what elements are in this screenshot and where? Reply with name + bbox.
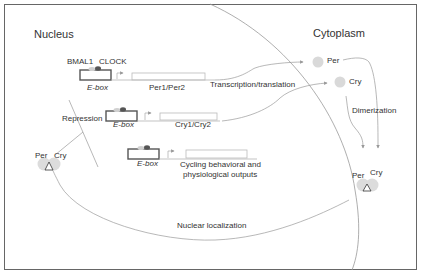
protein-per-cyto: [313, 57, 324, 68]
tss-arrow-1: [117, 73, 123, 79]
gene-per-construct: [80, 66, 215, 80]
label-dimer-nuc-per: Per: [35, 152, 47, 160]
label-repression: Repression: [62, 115, 102, 123]
label-transcription-translation: Transcription/translation: [210, 81, 295, 89]
label-nucleus: Nucleus: [34, 29, 74, 40]
label-outputs-line1: Cycling behavioral and: [180, 161, 261, 169]
label-dimer-nuc-cry: Cry: [54, 152, 66, 160]
repression-bar: [69, 100, 98, 167]
ebox-box-3: [128, 149, 159, 159]
label-per-cyto: Per: [327, 57, 339, 65]
label-outputs-line2: physiological outputs: [183, 171, 257, 179]
label-per1-per2: Per1/Per2: [149, 84, 185, 92]
gene-box-per: [132, 73, 205, 80]
label-bmal1: BMAL1: [67, 58, 93, 66]
ebox-box-1: [80, 70, 111, 80]
bmal1-dot-1: [89, 67, 96, 71]
label-dimerization: Dimerization: [352, 107, 396, 115]
nuclear-membrane: [210, 4, 359, 270]
gene-box-cry: [160, 113, 217, 120]
label-clock: CLOCK: [99, 58, 127, 66]
protein-cry-cyto: [335, 77, 346, 88]
label-ebox-1: E-box: [87, 84, 108, 92]
diagram-canvas: [0, 0, 423, 276]
label-cry1-cry2: Cry1/Cry2: [175, 121, 211, 129]
label-dimer-cyto-per: Per: [352, 172, 364, 180]
label-cytoplasm: Cytoplasm: [313, 28, 365, 39]
label-ebox-3: E-box: [137, 160, 158, 168]
label-ebox-2: E-box: [113, 121, 134, 129]
label-cry-cyto: Cry: [349, 78, 361, 86]
arrow-dimer-per: [343, 58, 378, 148]
gene-output-construct: [128, 145, 257, 159]
label-dimer-cyto-cry: Cry: [370, 169, 382, 177]
gene-cry-construct: [106, 107, 220, 121]
label-nuclear-localization: Nuclear localization: [177, 222, 246, 230]
arrow-per-transcription: [215, 62, 303, 80]
gene-box-output: [186, 150, 247, 158]
arrow-dimer-cry: [346, 96, 363, 148]
clock-dot-1: [95, 66, 101, 70]
